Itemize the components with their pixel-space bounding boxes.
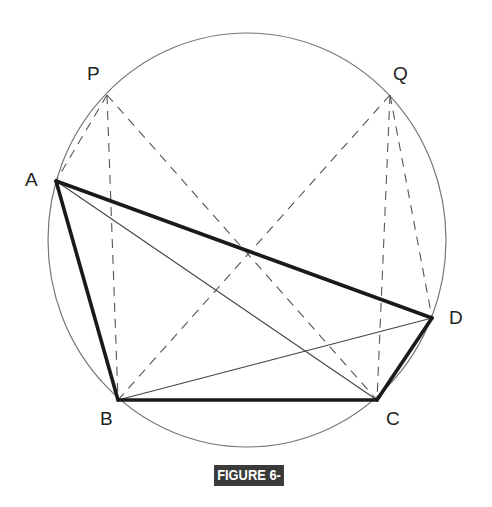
point-label-d: D	[449, 307, 463, 328]
point-label-q: Q	[393, 63, 408, 84]
point-label-p: P	[87, 63, 100, 84]
cyclic-quadrilateral-diagram: PQABCD	[0, 0, 492, 507]
segment-pb-dashed	[107, 95, 118, 400]
diagonal-lines	[56, 181, 432, 400]
point-label-a: A	[25, 169, 38, 190]
segment-ab-thick	[56, 181, 118, 400]
point-label-b: B	[100, 408, 113, 429]
segment-qd-dashed	[390, 95, 432, 318]
figure-caption: FIGURE 6-15	[214, 465, 284, 486]
point-label-c: C	[386, 408, 400, 429]
segment-pa-dashed	[56, 95, 107, 181]
point-labels: PQABCD	[25, 63, 463, 429]
dashed-lines	[56, 95, 432, 400]
segment-qc-dashed	[377, 95, 390, 400]
segment-ac-thin	[56, 181, 377, 400]
segment-qb-dashed	[118, 95, 390, 400]
segment-ad-thick	[56, 181, 432, 318]
